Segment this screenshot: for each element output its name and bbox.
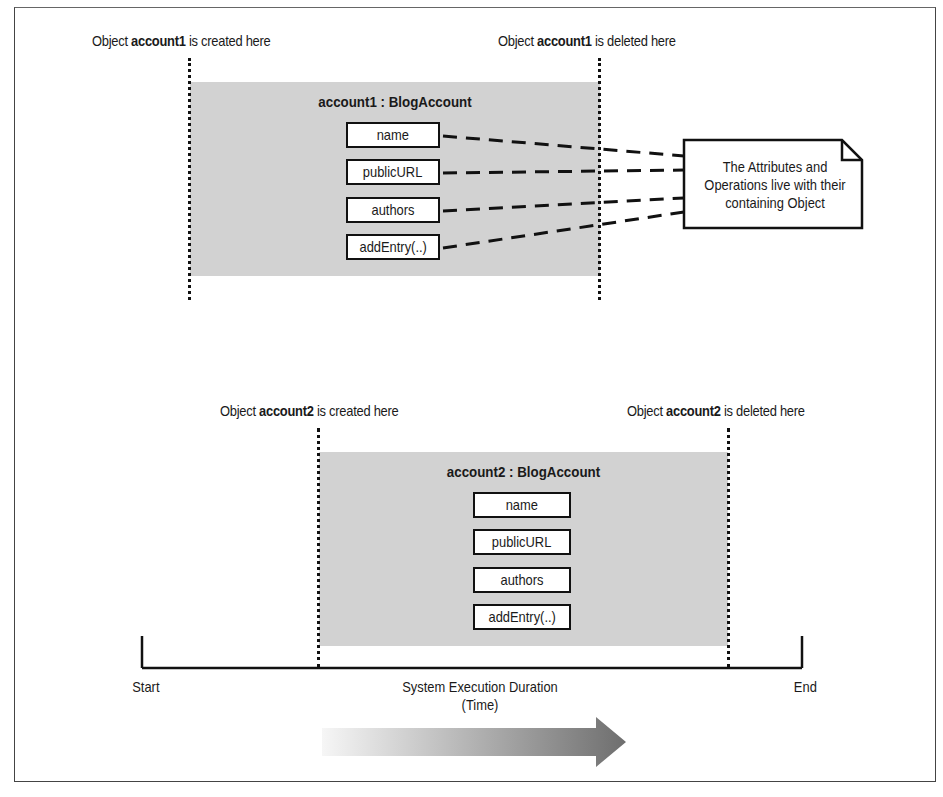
- timeline: [142, 636, 802, 668]
- timeline-end-label: End: [794, 678, 817, 696]
- time-arrow: [322, 717, 626, 767]
- note-text: The Attributes and Operations live with …: [702, 158, 848, 212]
- timeline-start-label: Start: [132, 678, 159, 696]
- note-connectors: [443, 136, 684, 248]
- timeline-caption: System Execution Duration (Time): [377, 678, 583, 714]
